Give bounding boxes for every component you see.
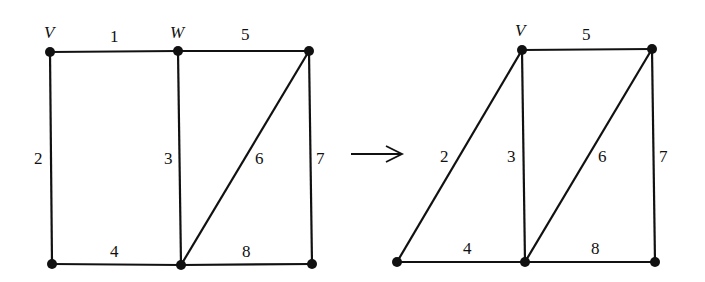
transform-arrow-icon bbox=[351, 146, 402, 162]
vertex-label-w: W bbox=[170, 23, 186, 42]
edge-8 bbox=[181, 264, 312, 265]
diagram-canvas: V W 1 5 2 3 6 7 4 8 V 5 2 3 6 7 4 8 bbox=[0, 0, 705, 282]
edge-label-3: 3 bbox=[164, 149, 173, 168]
edge-label-7: 7 bbox=[659, 147, 668, 166]
vertex-label-v: V bbox=[44, 23, 57, 42]
edge-label-2: 2 bbox=[440, 147, 449, 166]
edge-1 bbox=[50, 51, 178, 52]
edge-4 bbox=[52, 264, 181, 265]
edge-label-3: 3 bbox=[507, 147, 516, 166]
edge-label-2: 2 bbox=[34, 149, 43, 168]
vertex-bottom-left bbox=[47, 259, 57, 269]
vertex-v bbox=[517, 45, 527, 55]
edge-label-8: 8 bbox=[591, 239, 600, 258]
vertex-bottom-mid bbox=[520, 257, 530, 267]
edge-label-6: 6 bbox=[598, 147, 607, 166]
graph-before: V W 1 5 2 3 6 7 4 8 bbox=[34, 23, 325, 270]
edge-5 bbox=[522, 49, 652, 50]
edge-label-5: 5 bbox=[582, 25, 591, 44]
edge-7 bbox=[309, 51, 312, 264]
vertex-label-v: V bbox=[515, 21, 528, 40]
edge-label-4: 4 bbox=[110, 242, 119, 261]
edge-label-4: 4 bbox=[463, 239, 472, 258]
edge-label-6: 6 bbox=[255, 149, 264, 168]
vertex-bottom-mid bbox=[176, 260, 186, 270]
vertex-w bbox=[173, 46, 183, 56]
vertex-bottom-right bbox=[307, 259, 317, 269]
edge-7 bbox=[652, 49, 655, 262]
edge-label-5: 5 bbox=[241, 25, 250, 44]
edge-3 bbox=[522, 50, 525, 262]
edge-3 bbox=[178, 51, 181, 265]
edge-6 bbox=[525, 49, 652, 262]
vertex-top-right bbox=[647, 44, 657, 54]
vertex-top-right bbox=[304, 46, 314, 56]
edge-label-1: 1 bbox=[110, 27, 119, 46]
vertex-v bbox=[45, 47, 55, 57]
edge-2 bbox=[397, 50, 522, 262]
edge-label-8: 8 bbox=[242, 242, 251, 261]
vertex-bottom-left bbox=[392, 257, 402, 267]
graph-after: V 5 2 3 6 7 4 8 bbox=[392, 21, 668, 267]
edge-label-7: 7 bbox=[316, 149, 325, 168]
edge-2 bbox=[50, 52, 52, 264]
edge-6 bbox=[181, 51, 309, 265]
vertex-bottom-right bbox=[650, 257, 660, 267]
